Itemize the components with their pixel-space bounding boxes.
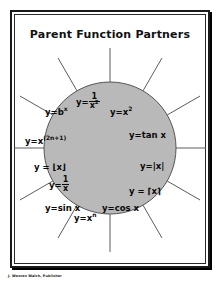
label-exponential: y=bx [45, 108, 68, 117]
publisher-credit: J. Weston Walch, Publisher [8, 274, 62, 278]
fraction-numerator: 1 [62, 176, 70, 184]
label-reciprocal-prefix: y= [49, 180, 62, 190]
radial-diagram: y=bx y= 1 x2 y=x2 y=x(2n+1) y=tan x y = … [14, 48, 206, 260]
ray-line [167, 96, 200, 115]
label-power-n-exponent: n [92, 211, 96, 218]
fraction-denominator: x [62, 184, 70, 193]
label-absolute-value: y=|x| [140, 162, 164, 171]
page-title: Parent Function Partners [14, 28, 206, 41]
label-reciprocal: y= 1 x [49, 177, 69, 194]
label-odd-power-base: y=x [25, 136, 43, 146]
diagram-svg [14, 48, 206, 260]
label-reciprocal-squared-prefix: y= [76, 97, 89, 107]
label-sine: y=sin x [45, 204, 80, 213]
label-tangent: y=tan x [129, 131, 166, 140]
fraction-reciprocal-squared: 1 x2 [89, 93, 100, 110]
label-odd-power-exponent: (2n+1) [43, 134, 66, 141]
label-floor: y = ⌊x⌋ [34, 163, 66, 172]
ray-line [58, 58, 77, 91]
fraction-reciprocal: 1 x [62, 176, 70, 193]
ray-line [143, 58, 162, 91]
label-quadratic-base: y=x [110, 107, 128, 117]
fraction-denominator: x2 [89, 101, 100, 110]
ray-line [167, 181, 200, 200]
label-exponential-exponent: x [64, 105, 68, 112]
label-power-n: y=xn [74, 214, 96, 223]
label-power-n-base: y=x [74, 213, 92, 223]
label-exponential-base: y=b [45, 107, 64, 117]
ray-line [143, 205, 162, 238]
label-odd-power: y=x(2n+1) [25, 137, 66, 146]
ray-line [20, 181, 53, 200]
poster-page: Parent Function Partners y=bx y= 1 x2 y=… [0, 0, 221, 290]
label-quadratic-exponent: 2 [128, 105, 132, 112]
label-cosine: y=cos x [102, 204, 139, 213]
label-quadratic: y=x2 [110, 108, 132, 117]
label-reciprocal-squared: y= 1 x2 [76, 94, 100, 111]
label-ceiling: y = ⌈x⌉ [129, 187, 161, 196]
